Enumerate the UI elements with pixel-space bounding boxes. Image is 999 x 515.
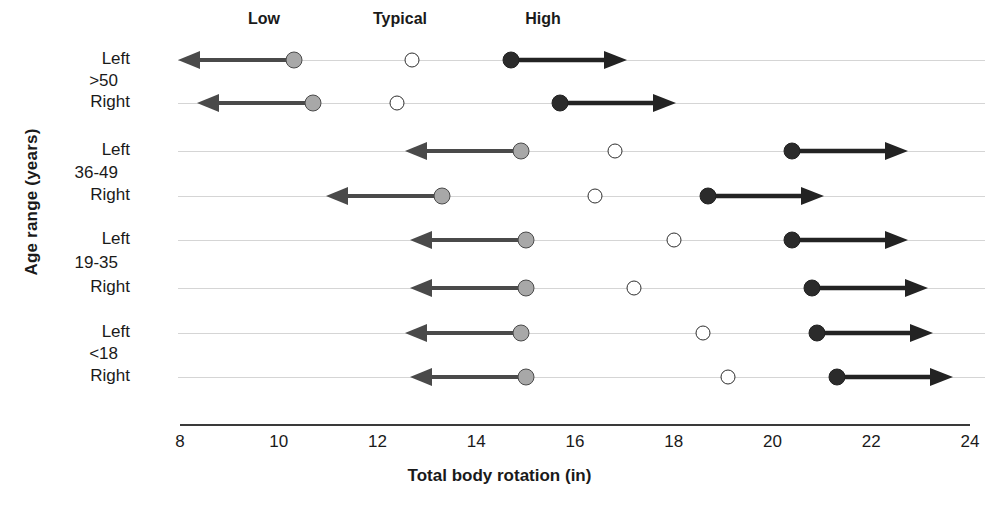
marker-typical [390, 96, 405, 111]
marker-typical [721, 370, 736, 385]
legend-label-typical: Typical [373, 10, 427, 28]
x-tick-label: 10 [269, 432, 288, 452]
marker-low [517, 369, 534, 386]
marker-typical [405, 53, 420, 68]
x-tick-label: 24 [961, 432, 980, 452]
legend-label-low: Low [248, 10, 280, 28]
marker-typical [666, 233, 681, 248]
x-tick-label: 12 [368, 432, 387, 452]
low-left-arrow [324, 184, 444, 208]
high-right-arrow [558, 91, 678, 115]
marker-high [804, 280, 821, 297]
x-tick-label: 16 [566, 432, 585, 452]
low-left-arrow [195, 91, 315, 115]
row-label-right: Right [60, 366, 130, 386]
low-left-arrow [176, 48, 296, 72]
row-label-right: Right [60, 277, 130, 297]
row-baseline [178, 196, 985, 197]
group-label-19-35: 19-35 [28, 253, 118, 273]
high-right-arrow [790, 139, 910, 163]
row-label-right: Right [60, 185, 130, 205]
chart-canvas: Age range (years) Low Typical High >50 3… [0, 0, 999, 515]
marker-low [512, 325, 529, 342]
row-label-left: Left [60, 49, 130, 69]
low-left-arrow [408, 276, 528, 300]
high-right-arrow [706, 184, 826, 208]
low-left-arrow [403, 139, 523, 163]
marker-low [433, 188, 450, 205]
marker-high [700, 188, 717, 205]
row-label-right: Right [60, 92, 130, 112]
group-label-over-50: >50 [28, 71, 118, 91]
marker-high [784, 143, 801, 160]
low-left-arrow [408, 365, 528, 389]
x-tick-label: 20 [763, 432, 782, 452]
high-right-arrow [835, 365, 955, 389]
x-tick-label: 14 [467, 432, 486, 452]
high-right-arrow [815, 321, 935, 345]
marker-low [305, 95, 322, 112]
marker-low [512, 143, 529, 160]
marker-high [552, 95, 569, 112]
marker-low [517, 280, 534, 297]
marker-high [828, 369, 845, 386]
marker-high [808, 325, 825, 342]
marker-low [517, 232, 534, 249]
x-tick-label: 18 [664, 432, 683, 452]
marker-typical [607, 144, 622, 159]
marker-low [285, 52, 302, 69]
legend-label-high: High [525, 10, 561, 28]
row-label-left: Left [60, 140, 130, 160]
group-label-36-49: 36-49 [28, 163, 118, 183]
marker-typical [696, 326, 711, 341]
x-axis-title: Total body rotation (in) [0, 466, 999, 486]
high-right-arrow [810, 276, 930, 300]
x-axis-line [180, 424, 970, 426]
high-right-arrow [509, 48, 629, 72]
marker-high [784, 232, 801, 249]
marker-typical [587, 189, 602, 204]
y-axis-title: Age range (years) [22, 92, 42, 312]
row-label-left: Left [60, 322, 130, 342]
marker-typical [627, 281, 642, 296]
group-label-under-18: <18 [28, 344, 118, 364]
low-left-arrow [403, 321, 523, 345]
low-left-arrow [408, 228, 528, 252]
high-right-arrow [790, 228, 910, 252]
row-label-left: Left [60, 229, 130, 249]
x-tick-label: 22 [862, 432, 881, 452]
x-tick-label: 8 [175, 432, 184, 452]
marker-high [502, 52, 519, 69]
